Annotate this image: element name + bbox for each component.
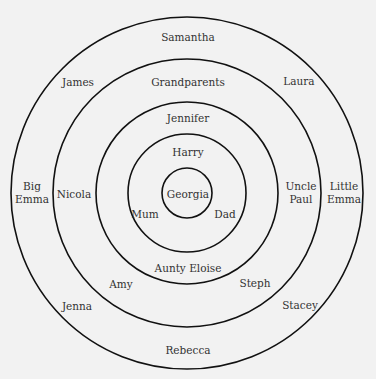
label-laura: Laura (283, 75, 314, 88)
label-little-emma-line2: Emma (327, 193, 361, 206)
label-harry: Harry (172, 146, 203, 159)
label-big-emma: Big Emma (15, 180, 49, 206)
label-mum: Mum (131, 208, 158, 221)
relationship-circles-diagram: Georgia Mum Dad Harry Jennifer Aunty Elo… (0, 0, 376, 379)
label-uncle-paul-line2: Paul (285, 193, 316, 206)
label-amy: Amy (109, 278, 132, 291)
label-aunty-eloise: Aunty Eloise (155, 262, 222, 275)
label-georgia: Georgia (167, 188, 209, 201)
label-dad: Dad (214, 208, 235, 221)
label-james: James (62, 76, 94, 89)
label-steph: Steph (239, 277, 270, 290)
label-samantha: Samantha (161, 31, 215, 44)
label-uncle-paul: Uncle Paul (285, 180, 316, 206)
label-big-emma-line1: Big (15, 180, 49, 193)
label-uncle-paul-line1: Uncle (285, 180, 316, 193)
label-jennifer: Jennifer (167, 112, 209, 125)
label-rebecca: Rebecca (165, 344, 210, 357)
label-little-emma-line1: Little (327, 180, 361, 193)
label-stacey: Stacey (282, 299, 318, 312)
label-jenna: Jenna (62, 300, 92, 313)
label-little-emma: Little Emma (327, 180, 361, 206)
label-big-emma-line2: Emma (15, 193, 49, 206)
label-nicola: Nicola (57, 188, 91, 201)
label-grandparents: Grandparents (151, 76, 225, 89)
